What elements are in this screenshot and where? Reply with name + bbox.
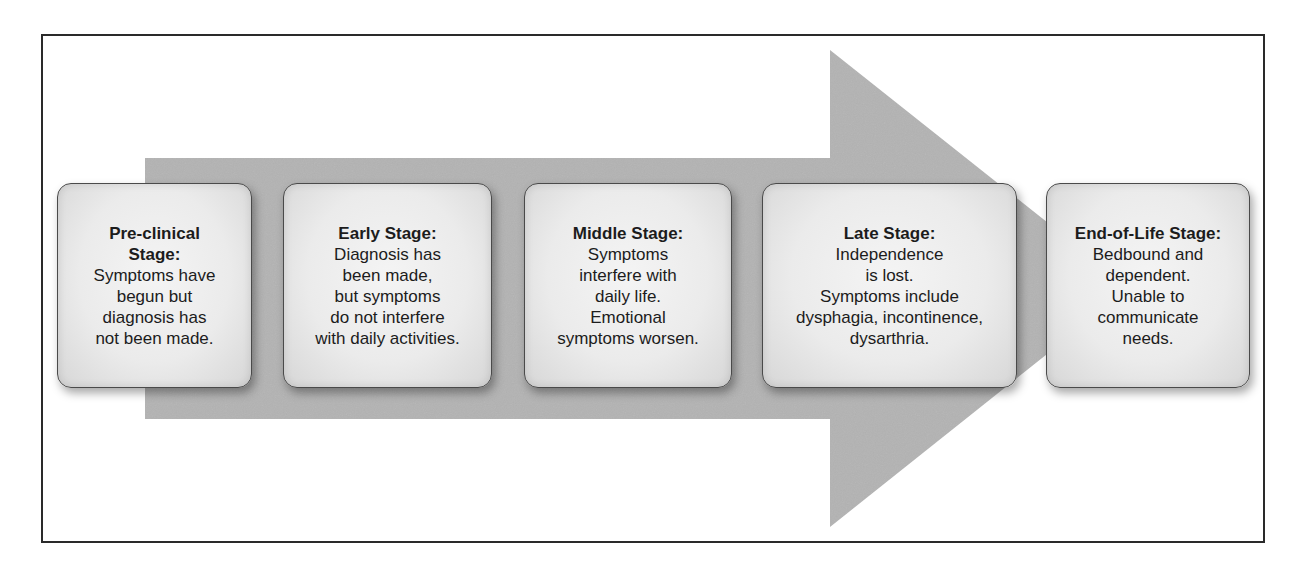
stage-description: Diagnosis has been made, but symptoms do… — [315, 244, 460, 349]
stage-title: Middle Stage: — [573, 223, 684, 244]
stage-title: Late Stage: — [844, 223, 936, 244]
stage-title: End-of-Life Stage: — [1075, 223, 1221, 244]
stage-description: Independence is lost. Symptoms include d… — [796, 244, 983, 349]
stage-description: Bedbound and dependent. Unable to commun… — [1093, 244, 1204, 349]
stage-description: Symptoms interfere with daily life. Emot… — [557, 244, 699, 349]
stage-box-middle: Middle Stage: Symptoms interfere with da… — [524, 183, 732, 388]
stage-box-early: Early Stage: Diagnosis has been made, bu… — [283, 183, 492, 388]
stage-description: Symptoms have begun but diagnosis has no… — [94, 265, 216, 349]
stage-box-pre-clinical: Pre-clinical Stage: Symptoms have begun … — [57, 183, 252, 388]
stage-title: Early Stage: — [338, 223, 436, 244]
stage-title: Pre-clinical Stage: — [109, 223, 200, 265]
stage-box-end-of-life: End-of-Life Stage: Bedbound and dependen… — [1046, 183, 1250, 388]
stage-box-late: Late Stage: Independence is lost. Sympto… — [762, 183, 1017, 388]
